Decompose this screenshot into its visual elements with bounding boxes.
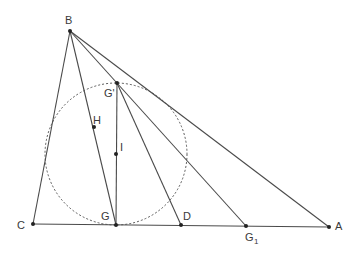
point-Gprime: [115, 81, 119, 85]
geometry-diagram: B C A G D G 1 G' H I: [0, 0, 358, 262]
segment-BA: [70, 31, 329, 227]
segment-BG1: [70, 31, 246, 226]
label-H: H: [93, 114, 101, 126]
point-A: [327, 225, 331, 229]
point-C: [31, 222, 35, 226]
label-G1: G: [245, 231, 254, 243]
point-B: [68, 29, 72, 33]
segment-BC: [33, 31, 70, 224]
label-A: A: [335, 220, 343, 232]
label-I: I: [120, 141, 123, 153]
label-Gprime: G': [104, 87, 115, 99]
label-D: D: [183, 210, 191, 222]
segment-GpD: [117, 83, 181, 225]
point-I: [114, 152, 118, 156]
label-G: G: [101, 210, 110, 222]
label-C: C: [17, 219, 25, 231]
point-G: [114, 223, 118, 227]
label-G1-subscript: 1: [254, 237, 259, 246]
point-D: [179, 223, 183, 227]
label-B: B: [65, 14, 72, 26]
point-G1: [244, 224, 248, 228]
